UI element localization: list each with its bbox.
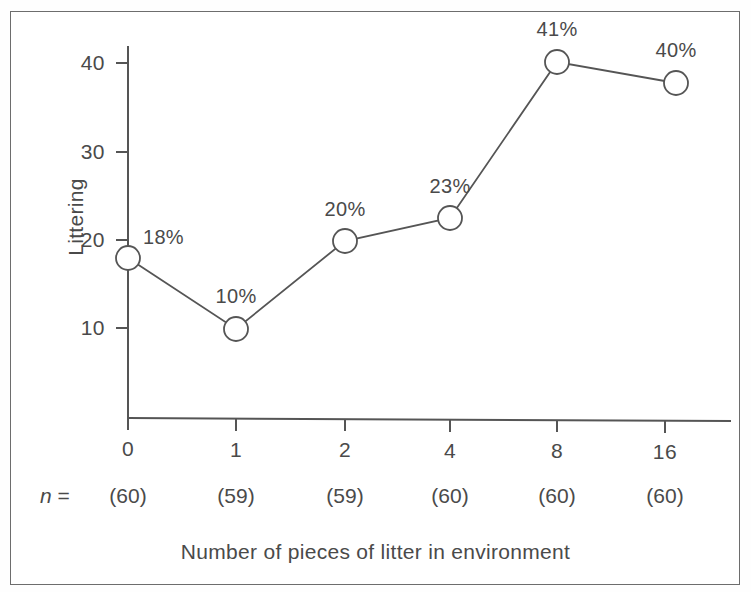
x-tick-label-4: 4 [420,439,480,463]
y-tick-label-10: 10 [45,316,105,340]
x-tick-label-16: 16 [635,440,695,464]
x-tick-label-0: 0 [98,437,158,461]
sample-size-0: (60) [93,484,163,508]
data-point-marker [116,246,140,270]
y-tick-label-40: 40 [45,51,105,75]
data-label-4: 41% [522,18,592,41]
data-point-marker [333,229,357,253]
sample-size-1: (59) [201,484,271,508]
data-label-2: 20% [310,198,380,221]
data-point-marker [664,71,688,95]
x-axis-line [128,418,731,421]
data-point-marker [438,206,462,230]
x-tick-label-1: 1 [206,438,266,462]
data-label-5: 40% [641,39,711,62]
y-axis-title: Littering [64,157,88,277]
sample-size-5: (60) [630,484,700,508]
data-point-marker [545,50,569,74]
data-point-marker [224,317,248,341]
data-label-3: 23% [415,175,485,198]
sample-size-equals: = [52,484,70,507]
sample-size-4: (60) [522,484,592,508]
sample-size-row: n = (60) (59) (59) (60) (60) (60) [0,484,751,514]
data-label-0: 18% [143,226,184,249]
x-tick-label-2: 2 [315,438,375,462]
sample-size-prefix: n = [40,484,70,508]
x-tick-label-8: 8 [527,439,587,463]
figure-container: 40 30 20 10 0 1 2 4 8 16 18% 10% 20% 23%… [0,0,751,592]
sample-size-3: (60) [415,484,485,508]
sample-size-2: (59) [310,484,380,508]
sample-size-n-symbol: n [40,484,52,507]
x-axis-title: Number of pieces of litter in environmen… [0,540,751,564]
data-label-1: 10% [201,285,271,308]
